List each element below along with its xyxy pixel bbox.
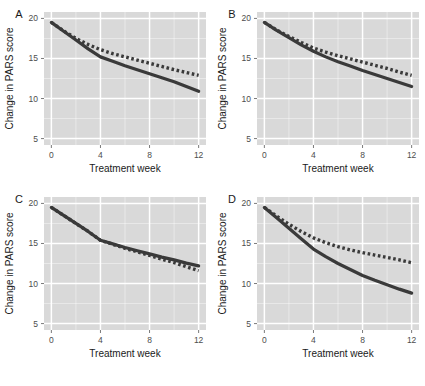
x-tick-label: 0 (261, 150, 266, 160)
y-axis-title: Change in PARS score (4, 27, 15, 130)
panel-tag-a: A (15, 8, 23, 20)
panel-tag-d: D (228, 193, 236, 205)
y-tick-label: 15 (241, 53, 251, 63)
y-tick-label: 5 (33, 319, 38, 329)
x-tick-label: 8 (147, 335, 152, 345)
y-tick-label: 10 (241, 94, 251, 104)
x-axis-title: Treatment week (89, 348, 161, 359)
y-tick-label: 10 (241, 279, 251, 289)
x-tick-label: 4 (98, 150, 103, 160)
x-tick-label: 0 (49, 150, 54, 160)
panel-grid: 048125101520Treatment weekChange in PARS… (0, 0, 425, 370)
panel-a-plot: 048125101520Treatment weekChange in PARS… (0, 0, 212, 185)
y-axis-title: Change in PARS score (4, 212, 15, 315)
y-tick-label: 15 (241, 238, 251, 248)
y-tick-label: 5 (246, 319, 251, 329)
x-tick-label: 8 (360, 335, 365, 345)
panel-c-plot: 048125101520Treatment weekChange in PARS… (0, 185, 212, 370)
y-tick-label: 20 (29, 198, 39, 208)
y-axis-title: Change in PARS score (217, 212, 228, 315)
y-tick-label: 15 (29, 53, 39, 63)
panel-d: 048125101520Treatment weekChange in PARS… (213, 185, 425, 370)
x-axis-title: Treatment week (302, 348, 374, 359)
x-tick-label: 8 (147, 150, 152, 160)
x-tick-label: 4 (311, 335, 316, 345)
x-tick-label: 0 (49, 335, 54, 345)
panel-b-plot: 048125101520Treatment weekChange in PARS… (213, 0, 425, 185)
x-tick-label: 12 (194, 335, 204, 345)
panel-c: 048125101520Treatment weekChange in PARS… (0, 185, 213, 370)
y-tick-label: 20 (241, 198, 251, 208)
x-tick-label: 4 (98, 335, 103, 345)
y-tick-label: 20 (29, 13, 39, 23)
x-tick-label: 8 (360, 150, 365, 160)
y-tick-label: 5 (33, 134, 38, 144)
y-tick-label: 15 (29, 238, 39, 248)
x-tick-label: 12 (194, 150, 204, 160)
y-tick-label: 5 (246, 134, 251, 144)
x-tick-label: 12 (406, 150, 416, 160)
panel-b: 048125101520Treatment weekChange in PARS… (213, 0, 425, 185)
y-tick-label: 20 (241, 13, 251, 23)
y-tick-label: 10 (29, 94, 39, 104)
panel-a: 048125101520Treatment weekChange in PARS… (0, 0, 213, 185)
figure-panel-grid: 048125101520Treatment weekChange in PARS… (0, 0, 425, 386)
x-axis-title: Treatment week (302, 163, 374, 174)
x-tick-label: 12 (406, 335, 416, 345)
panel-d-plot: 048125101520Treatment weekChange in PARS… (213, 185, 425, 370)
x-axis-title: Treatment week (89, 163, 161, 174)
panel-tag-c: C (15, 193, 23, 205)
y-tick-label: 10 (29, 279, 39, 289)
x-tick-label: 4 (311, 150, 316, 160)
x-tick-label: 0 (261, 335, 266, 345)
panel-tag-b: B (228, 8, 235, 20)
y-axis-title: Change in PARS score (217, 27, 228, 130)
